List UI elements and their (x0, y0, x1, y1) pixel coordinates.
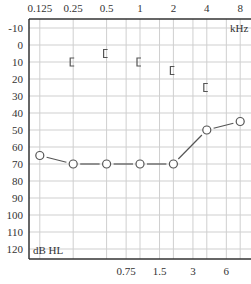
y-axis-labels: -100102030405060708090100110120 (7, 22, 24, 255)
audiogram-chart: 0.1250.250.51248 0.751.536 -100102030405… (0, 0, 251, 284)
db-label: 10 (12, 56, 24, 68)
x-unit-label: kHz (230, 22, 248, 34)
air-conduction-marker (69, 160, 77, 168)
frequency-label: 0.75 (117, 265, 137, 277)
air-conduction-marker (36, 152, 44, 160)
grid-lines (29, 19, 251, 259)
db-label: 60 (12, 141, 24, 153)
db-label: 100 (7, 209, 24, 221)
frequency-label: 1.5 (153, 265, 167, 277)
connector-line (47, 157, 67, 162)
db-label: 120 (7, 243, 24, 255)
db-label: 110 (7, 226, 24, 238)
air-conduction-marker (169, 160, 177, 168)
db-label: 50 (12, 124, 24, 136)
y-unit-label: dB HL (33, 244, 64, 256)
frequency-label: 2 (171, 2, 177, 14)
frequency-label: 8 (237, 2, 243, 14)
db-label: -10 (8, 22, 23, 34)
db-label: 0 (18, 39, 24, 51)
frequency-label: 0.125 (27, 2, 52, 14)
db-label: 70 (12, 158, 24, 170)
air-conduction-marker (236, 118, 244, 126)
air-conduction-marker (136, 160, 144, 168)
frequency-label: 1 (137, 2, 143, 14)
frequency-label: 4 (204, 2, 210, 14)
frequency-label: 0.25 (64, 2, 84, 14)
air-conduction-marker (203, 126, 211, 134)
frequency-label: 0.5 (100, 2, 114, 14)
db-label: 80 (12, 175, 24, 187)
bottom-frequency-labels: 0.751.536 (117, 265, 230, 277)
top-frequency-labels: 0.1250.250.51248 (27, 2, 243, 14)
frequency-label: 3 (190, 265, 196, 277)
db-label: 30 (12, 90, 24, 102)
db-label: 90 (12, 192, 24, 204)
frequency-label: 6 (224, 265, 230, 277)
connector-line (214, 123, 234, 128)
air-conduction-marker (103, 160, 111, 168)
db-label: 20 (12, 73, 24, 85)
db-label: 40 (12, 107, 24, 119)
